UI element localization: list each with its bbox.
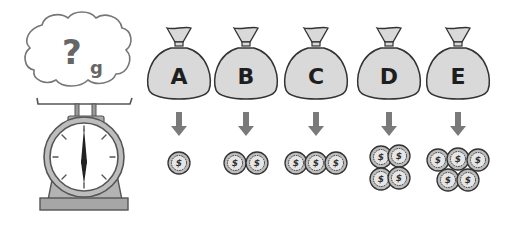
down-arrow-icon [308, 112, 324, 136]
coin-icon: $ [455, 154, 461, 164]
coin-icon: $ [396, 173, 402, 183]
bags-row: A$B$$C$$$D$$$$E$$$$$ [0, 0, 522, 225]
bag-e: E [427, 27, 490, 99]
coin-group-a: $ [168, 152, 190, 174]
bag-a: A [148, 27, 211, 99]
coin-icon: $ [475, 155, 481, 165]
down-arrow-icon [381, 112, 397, 136]
coin-icon: $ [378, 152, 384, 162]
down-arrow-icon [238, 112, 254, 136]
coin-icon: $ [333, 158, 339, 168]
coin-icon: $ [378, 174, 384, 184]
coin-group-c: $$$ [285, 152, 347, 174]
coin-group-d: $$$$ [370, 145, 410, 190]
coin-icon: $ [445, 175, 451, 185]
coin-icon: $ [465, 175, 471, 185]
coin-icon: $ [232, 158, 238, 168]
coin-icon: $ [176, 158, 182, 168]
coin-icon: $ [254, 158, 260, 168]
bag-label: A [170, 64, 187, 89]
coin-icon: $ [435, 155, 441, 165]
bag-label: D [380, 64, 398, 89]
coin-group-b: $$ [224, 152, 268, 174]
bag-label: E [450, 64, 465, 89]
down-arrow-icon [450, 112, 466, 136]
coin-icon: $ [293, 158, 299, 168]
down-arrow-icon [171, 112, 187, 136]
bag-c: C [285, 27, 348, 99]
bag-label: C [308, 64, 324, 89]
coin-icon: $ [396, 151, 402, 161]
bag-d: D [358, 27, 421, 99]
coin-icon: $ [313, 158, 319, 168]
coin-group-e: $$$$$ [427, 148, 489, 191]
bag-b: B [215, 27, 278, 99]
bag-label: B [238, 64, 255, 89]
